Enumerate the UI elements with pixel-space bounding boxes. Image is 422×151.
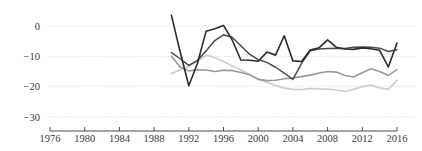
x-tick-label-6: 2000 bbox=[248, 133, 269, 144]
x-axis-tick-labels: 1976198019841988199219962000200420082012… bbox=[40, 133, 408, 144]
y-axis-tick-labels: 0−10−20−30 bbox=[24, 21, 40, 123]
y-tick-label-0: 0 bbox=[35, 21, 40, 32]
x-tick-label-4: 1992 bbox=[178, 133, 199, 144]
x-tick-label-5: 1996 bbox=[213, 133, 234, 144]
x-tick-label-3: 1988 bbox=[144, 133, 165, 144]
series-layer bbox=[171, 15, 397, 91]
y-tick-label-2: −20 bbox=[24, 81, 40, 92]
chart-canvas: 0−10−20−30 19761980198419881992199620002… bbox=[0, 0, 422, 151]
y-tick-label-3: −30 bbox=[24, 112, 40, 123]
x-tick-label-2: 1984 bbox=[109, 133, 131, 144]
x-tick-label-9: 2012 bbox=[352, 133, 373, 144]
x-tick-label-8: 2008 bbox=[317, 133, 338, 144]
x-axis bbox=[50, 127, 397, 131]
line-chart: 0−10−20−30 19761980198419881992199620002… bbox=[0, 0, 422, 151]
x-tick-label-1: 1980 bbox=[74, 133, 95, 144]
x-tick-label-10: 2016 bbox=[387, 133, 408, 144]
x-tick-label-7: 2004 bbox=[282, 133, 304, 144]
y-tick-label-1: −10 bbox=[24, 51, 40, 62]
series-line-series-3 bbox=[171, 56, 397, 80]
x-tick-label-0: 1976 bbox=[40, 133, 61, 144]
